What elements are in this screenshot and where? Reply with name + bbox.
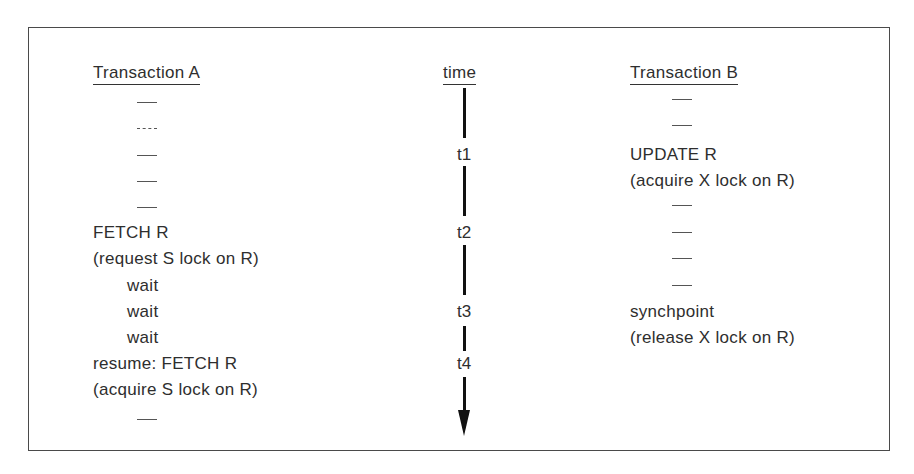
time-line-segment [463,377,466,413]
transaction-b-header: Transaction B [630,63,738,85]
transaction-a-fetch: FETCH R [93,223,169,243]
time-line-segment [463,166,466,216]
transaction-b-release-lock: (release X lock on R) [630,328,795,348]
time-label-t1: t1 [449,145,479,165]
time-line-segment [463,88,466,138]
transaction-b-acquire-lock: (acquire X lock on R) [630,171,795,191]
transaction-a-wait: wait [127,328,158,348]
transaction-b-step-placeholder [672,258,692,259]
transaction-a-acquire-lock: (acquire S lock on R) [93,380,258,400]
transaction-a-header: Transaction A [93,63,200,85]
transaction-a-step-placeholder [137,128,157,129]
transaction-a-step-placeholder [137,155,157,156]
time-line-segment [463,245,466,295]
transaction-a-resume-fetch: resume: FETCH R [93,354,237,374]
transaction-b-step-placeholder [672,125,692,126]
time-line-segment [463,326,466,351]
transaction-b-step-placeholder [672,232,692,233]
time-label-t2: t2 [449,223,479,243]
time-label-t3: t3 [449,302,479,322]
transaction-a-wait: wait [127,276,158,296]
time-header: time [443,63,476,85]
transaction-a-request-lock: (request S lock on R) [93,249,259,269]
time-label-t4: t4 [449,354,479,374]
transaction-a-step-placeholder [137,102,157,103]
transaction-b-step-placeholder [672,205,692,206]
transaction-b-step-placeholder [672,99,692,100]
transaction-b-step-placeholder [672,285,692,286]
transaction-b-synchpoint: synchpoint [630,302,714,322]
transaction-a-wait: wait [127,302,158,322]
transaction-b-update: UPDATE R [630,145,717,165]
arrow-down-icon [458,410,470,436]
transaction-a-step-placeholder [137,207,157,208]
transaction-a-step-placeholder [137,181,157,182]
transaction-a-step-placeholder [137,419,157,420]
